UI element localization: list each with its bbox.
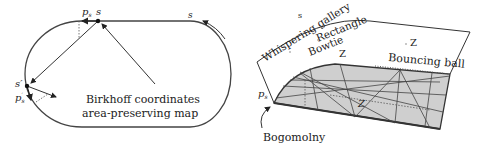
label-ps-prime: ps′ (15, 91, 25, 104)
label-z-surface: Z (357, 98, 366, 109)
label-s-arc: s (188, 10, 193, 20)
phase-space-diagram: s ps Whispering gallery Rectangle Bowtie… (257, 0, 470, 144)
label-s-axis: s (298, 11, 302, 20)
bogomolny-arrow (261, 107, 270, 128)
stadium-billiard: ps s s s′ ps′ Birkhoff coordinates area-… (15, 6, 231, 127)
label-ps: ps (82, 6, 92, 18)
caption-line-2: area-preserving map (82, 107, 198, 120)
diagram-canvas: ps s s s′ ps′ Birkhoff coordinates area-… (0, 0, 481, 147)
label-s: s (96, 6, 101, 17)
label-bogomolny: Bogomolny (263, 131, 326, 144)
label-z-upper-right: Z (410, 37, 417, 48)
s-direction-arrow (203, 21, 225, 39)
outgoing-trajectory (27, 86, 56, 97)
label-bouncing-ball: Bouncing ball (388, 51, 466, 71)
label-z-upper-left: Z (339, 48, 346, 59)
ps-prime-projection-dotted (36, 94, 48, 102)
label-ps-axis: ps (258, 88, 268, 100)
reflected-trajectory (31, 21, 98, 83)
caption-line-1: Birkhoff coordinates (86, 93, 200, 106)
incoming-trajectory (102, 24, 155, 84)
point-s-prime (25, 84, 29, 88)
label-s-prime: s′ (15, 78, 23, 89)
point-s (96, 19, 100, 23)
